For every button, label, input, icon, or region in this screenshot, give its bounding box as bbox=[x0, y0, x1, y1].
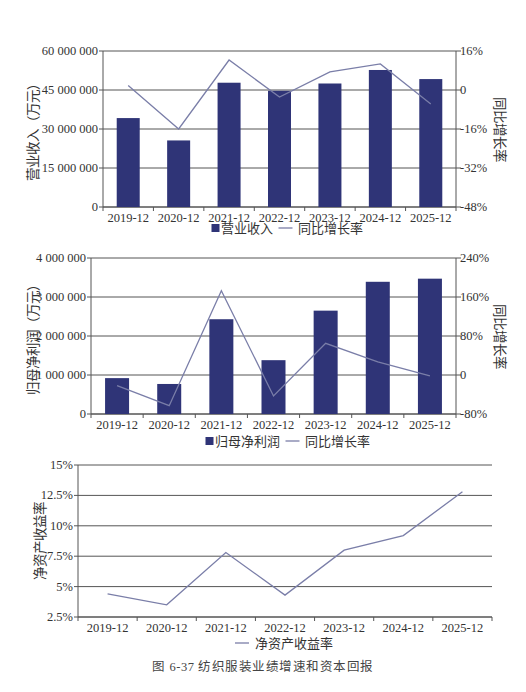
bar bbox=[209, 319, 233, 414]
bar bbox=[318, 84, 341, 208]
y-right-axis-title: 同比增长率 bbox=[492, 97, 508, 162]
x-tick-label: 2025-12 bbox=[442, 621, 484, 635]
roe-chart: 2.5%5%7.5%10%12.5%15%2019-122020-122021-… bbox=[0, 450, 526, 650]
bar bbox=[314, 311, 338, 414]
x-tick-label: 2019-12 bbox=[107, 211, 149, 225]
x-tick-label: 2019-12 bbox=[96, 418, 138, 432]
bar bbox=[218, 83, 241, 207]
y-axis-title: 归母净利润（万元） bbox=[25, 278, 41, 395]
y-right-tick-label: 16% bbox=[460, 44, 483, 58]
y-axis-title: 营业收入（万元） bbox=[26, 77, 41, 181]
figure: 015 000 00030 000 00045 000 00060 000 00… bbox=[0, 0, 526, 692]
y-right-tick-label: -32% bbox=[460, 161, 487, 175]
y-tick-label: 7.5% bbox=[47, 549, 73, 563]
x-tick-label: 2020-12 bbox=[158, 211, 200, 225]
legend: 净资产收益率 bbox=[235, 636, 333, 650]
y-right-tick-label: 0 bbox=[460, 368, 466, 382]
x-tick-label: 2020-12 bbox=[148, 418, 190, 432]
legend-line-label: 净资产收益率 bbox=[255, 636, 333, 650]
y-tick-label: 15 000 000 bbox=[42, 161, 98, 175]
x-tick-label: 2019-12 bbox=[87, 621, 129, 635]
y-tick-label: 2.5% bbox=[47, 610, 73, 624]
x-tick-label: 2024-12 bbox=[357, 418, 399, 432]
x-tick-label: 2021-12 bbox=[201, 418, 243, 432]
x-tick-label: 2020-12 bbox=[146, 621, 188, 635]
bar bbox=[117, 118, 140, 207]
bar bbox=[105, 378, 129, 414]
y-right-tick-label: -80% bbox=[460, 407, 487, 421]
legend-bar-label: 归母净利润 bbox=[215, 434, 280, 449]
line-series bbox=[108, 492, 463, 605]
y-right-tick-label: 160% bbox=[460, 290, 489, 304]
x-tick-label: 2023-12 bbox=[305, 418, 347, 432]
legend-bar-swatch bbox=[206, 437, 214, 445]
y-right-tick-label: 240% bbox=[460, 251, 489, 265]
bar bbox=[418, 279, 442, 414]
revenue-chart: 015 000 00030 000 00045 000 00060 000 00… bbox=[0, 0, 526, 240]
bar bbox=[167, 140, 190, 207]
y-tick-label: 1 000 000 bbox=[36, 368, 86, 382]
y-tick-label: 5% bbox=[56, 580, 73, 594]
x-tick-label: 2021-12 bbox=[205, 621, 247, 635]
y-axis-title: 净资产收益率 bbox=[32, 502, 48, 580]
y-tick-label: 45 000 000 bbox=[42, 83, 98, 97]
y-tick-label: 0 bbox=[92, 200, 98, 214]
y-tick-label: 30 000 000 bbox=[42, 122, 98, 136]
y-tick-label: 15% bbox=[50, 458, 73, 472]
x-tick-label: 2024-12 bbox=[382, 621, 424, 635]
bar bbox=[268, 91, 291, 207]
y-tick-label: 4 000 000 bbox=[36, 251, 86, 265]
legend-bar-swatch bbox=[212, 224, 220, 232]
y-tick-label: 10% bbox=[50, 519, 73, 533]
figure-caption: 图 6-37 纺织服装业绩增速和资本回报 bbox=[0, 656, 526, 675]
y-right-tick-label: 0 bbox=[460, 83, 466, 97]
bar bbox=[366, 282, 390, 414]
y-tick-label: 60 000 000 bbox=[42, 44, 98, 58]
x-tick-label: 2023-12 bbox=[323, 621, 365, 635]
x-tick-label: 2024-12 bbox=[360, 211, 402, 225]
y-tick-label: 2 000 000 bbox=[36, 329, 86, 343]
y-tick-label: 3 000 000 bbox=[36, 290, 86, 304]
y-right-tick-label: -48% bbox=[460, 200, 487, 214]
y-tick-label: 12.5% bbox=[41, 488, 73, 502]
legend-line-label: 同比增长率 bbox=[305, 434, 370, 449]
legend-bar-label: 营业收入 bbox=[221, 221, 273, 236]
y-tick-label: 0 bbox=[80, 407, 86, 421]
legend-line-label: 同比增长率 bbox=[298, 221, 363, 236]
x-tick-label: 2022-12 bbox=[253, 418, 295, 432]
y-right-axis-title: 同比增长率 bbox=[492, 304, 508, 369]
x-tick-label: 2025-12 bbox=[410, 211, 452, 225]
y-right-tick-label: 80% bbox=[460, 329, 483, 343]
legend: 归母净利润同比增长率 bbox=[206, 434, 370, 449]
net-profit-chart: 01 000 0002 000 0003 000 0004 000 000-80… bbox=[0, 240, 526, 450]
x-tick-label: 2022-12 bbox=[264, 621, 306, 635]
bar bbox=[369, 70, 392, 207]
y-right-tick-label: -16% bbox=[460, 122, 487, 136]
x-tick-label: 2025-12 bbox=[409, 418, 451, 432]
